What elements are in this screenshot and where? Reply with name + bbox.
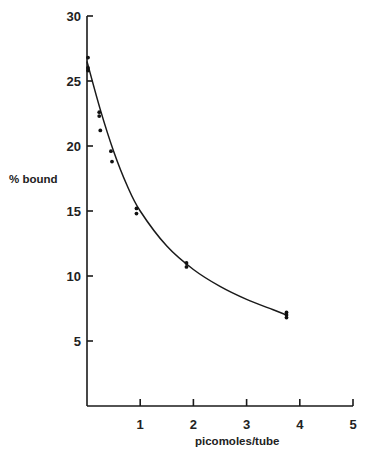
- fitted-curve: [87, 62, 287, 316]
- axes: 5101520253012345: [67, 9, 357, 432]
- y-axis-label: % bound: [9, 173, 58, 185]
- y-tick-label: 25: [67, 74, 81, 89]
- curve-path: [87, 62, 287, 316]
- x-tick-label: 4: [296, 417, 304, 432]
- y-tick-label: 30: [67, 9, 81, 24]
- data-point: [110, 160, 114, 164]
- y-tick-label: 5: [74, 334, 81, 349]
- data-point: [86, 56, 90, 60]
- x-tick-label: 1: [137, 417, 144, 432]
- data-point: [135, 212, 139, 216]
- x-tick-label: 2: [190, 417, 197, 432]
- y-tick-label: 20: [67, 139, 81, 154]
- data-point: [285, 316, 289, 320]
- data-point: [97, 114, 101, 118]
- data-point: [98, 129, 102, 133]
- data-point: [185, 265, 189, 269]
- data-point: [86, 69, 90, 73]
- data-point: [109, 149, 113, 153]
- x-axis-label: picomoles/tube: [195, 435, 279, 447]
- y-tick-label: 15: [67, 204, 81, 219]
- y-tick-label: 10: [67, 269, 81, 284]
- data-points: [86, 56, 288, 320]
- chart: 5101520253012345 % bound picomoles/tube: [0, 0, 366, 457]
- x-tick-label: 3: [243, 417, 250, 432]
- data-point: [97, 110, 101, 114]
- x-tick-label: 5: [349, 417, 356, 432]
- data-point: [185, 261, 189, 265]
- data-point: [135, 207, 139, 211]
